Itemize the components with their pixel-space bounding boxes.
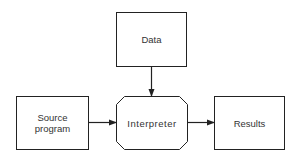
- results-label: Results: [214, 96, 285, 150]
- interpreter-label: Interpreter: [116, 96, 188, 150]
- data-label: Data: [116, 12, 187, 67]
- interpreter-diagram: Data Source program Interpreter Results: [0, 0, 300, 160]
- source-program-label: Source program: [16, 96, 89, 150]
- results-label-text: Results: [234, 118, 266, 129]
- data-label-text: Data: [141, 34, 161, 45]
- interpreter-label-text: Interpreter: [127, 118, 176, 129]
- source-label-line2: program: [35, 123, 70, 134]
- source-label-line1: Source: [37, 112, 67, 123]
